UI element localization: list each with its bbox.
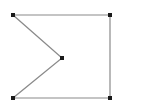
figure-background <box>0 0 148 111</box>
vertex-marker-bottom-left <box>11 96 15 100</box>
polygon-figure <box>0 0 148 111</box>
vertex-marker-top-left <box>11 13 15 17</box>
vertex-marker-top-right <box>108 13 112 17</box>
vertex-marker-bottom-right <box>108 96 112 100</box>
figure-canvas <box>0 0 148 111</box>
vertex-marker-notch-apex <box>60 56 64 60</box>
